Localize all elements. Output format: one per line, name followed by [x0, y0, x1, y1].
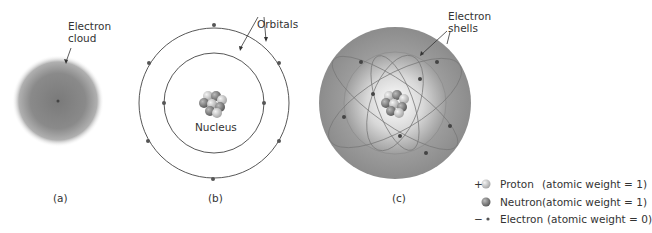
caption-b: (b)	[208, 192, 223, 204]
caption-a: (a)	[53, 192, 68, 204]
bohr-model	[139, 17, 289, 181]
legend-neutron-name: Neutron	[500, 196, 542, 208]
legend-electron-weight: (atomic weight = 0)	[547, 213, 652, 225]
legend-proton-sign: +	[474, 178, 483, 190]
electron-cloud-model	[12, 48, 104, 147]
nucleus-b	[199, 91, 227, 118]
legend-icons	[482, 180, 491, 221]
shell-model	[316, 27, 474, 179]
legend-proton-weight: (atomic weight = 1)	[542, 178, 647, 190]
orbitals-label: Orbitals	[257, 18, 298, 30]
electron-shells-label: Electronshells	[448, 10, 491, 34]
legend-neutron-weight: (atomic weight = 1)	[542, 196, 647, 208]
legend-electron-sign: −	[474, 213, 483, 225]
electron-cloud-label: Electroncloud	[68, 20, 111, 44]
caption-c: (c)	[392, 192, 406, 204]
legend-electron-name: Electron	[500, 213, 543, 225]
nucleus-label: Nucleus	[195, 121, 237, 133]
legend-proton-name: Proton	[500, 178, 534, 190]
